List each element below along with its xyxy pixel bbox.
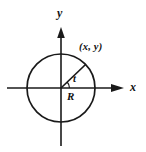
angle-label: t [73, 74, 76, 85]
y-axis-label: y [57, 7, 62, 19]
radius-label: R [67, 91, 74, 102]
x-axis-arrow-icon [111, 84, 124, 92]
y-axis-arrow-icon [57, 27, 65, 38]
x-axis-label: x [130, 81, 136, 93]
unit-circle-figure: y x (x, y) t R [0, 0, 146, 152]
angle-arc [67, 82, 69, 88]
point-coordinates-label: (x, y) [79, 42, 102, 53]
